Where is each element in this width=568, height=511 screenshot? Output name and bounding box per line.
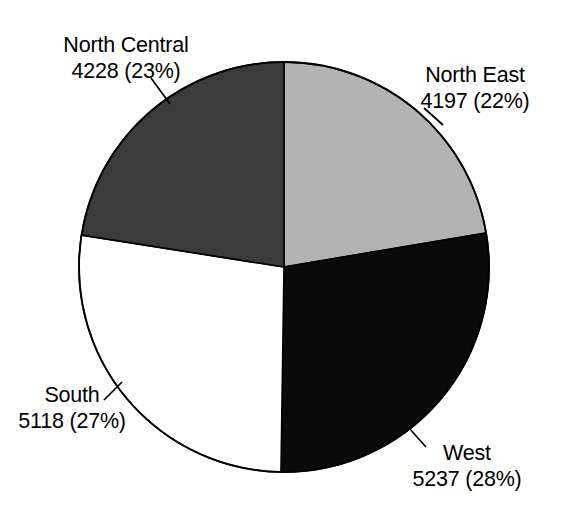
slice-label-west-value: 5237 (28%) [392, 466, 542, 492]
slice-label-south: South 5118 (27%) [8, 382, 136, 434]
pie-slice-west[interactable] [281, 233, 489, 472]
slice-label-north-east: North East 4197 (22%) [404, 62, 546, 114]
slice-label-south-name: South [8, 382, 136, 408]
slice-label-west-name: West [392, 440, 542, 466]
slice-label-north-east-name: North East [404, 62, 546, 88]
slice-label-north-central-value: 4228 (23%) [58, 58, 194, 84]
slice-label-north-east-value: 4197 (22%) [404, 88, 546, 114]
pie-slice-north-central[interactable] [82, 62, 285, 267]
pie-chart-figure: North Central 4228 (23%) North East 4197… [0, 0, 568, 511]
pie-slice-south[interactable] [79, 235, 284, 472]
slice-label-west: West 5237 (28%) [392, 440, 542, 492]
slice-label-north-central: North Central 4228 (23%) [58, 32, 194, 84]
slice-label-north-central-name: North Central [58, 32, 194, 58]
slice-label-south-value: 5118 (27%) [8, 408, 136, 434]
